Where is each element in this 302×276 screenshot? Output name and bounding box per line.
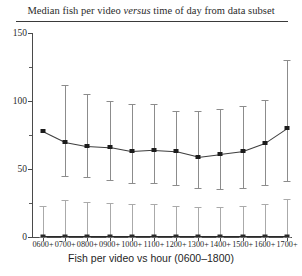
y-tick-minor-125: [29, 67, 32, 68]
errorbar-cap-lower-1500+: [239, 188, 246, 189]
errorbar-cap-lower-1000+: [128, 237, 135, 238]
data-point-baseline-near-zero-1400+: [218, 234, 223, 237]
errorbar-cap-upper-0900+: [106, 101, 113, 102]
x-axis-line: [32, 237, 292, 238]
line-segment-median-fish-per-video-10: [265, 128, 288, 144]
errorbar-cap-lower-1700+: [284, 237, 291, 238]
data-point-median-fish-per-video-0900+: [107, 145, 112, 149]
errorbar-cap-upper-1400+: [217, 207, 224, 208]
data-point-median-fish-per-video-1600+: [262, 141, 267, 145]
y-tick-label-150: 150: [13, 28, 27, 38]
errorbar-cap-lower-0900+: [106, 237, 113, 238]
errorbar-median-fish-per-video-1400+: [220, 109, 221, 189]
errorbar-baseline-near-zero-1600+: [265, 204, 266, 237]
y-tick-150: [28, 33, 33, 34]
errorbar-cap-upper-1000+: [128, 104, 135, 105]
data-point-baseline-near-zero-0800+: [85, 234, 90, 237]
errorbar-baseline-near-zero-1200+: [176, 206, 177, 237]
errorbar-cap-lower-0600+: [40, 237, 47, 238]
data-point-median-fish-per-video-1100+: [151, 148, 156, 152]
errorbar-baseline-near-zero-1500+: [243, 206, 244, 237]
errorbar-cap-lower-1300+: [195, 237, 202, 238]
errorbar-median-fish-per-video-0700+: [65, 85, 66, 176]
x-tick-label-0800+: 0800+: [77, 240, 98, 249]
errorbar-baseline-near-zero-0700+: [65, 200, 66, 237]
errorbar-median-fish-per-video-1000+: [132, 104, 133, 183]
errorbar-cap-lower-1600+: [261, 185, 268, 186]
y-tick-0: [28, 237, 33, 238]
chart-title-prefix: Median fish per video: [27, 5, 123, 16]
errorbar-cap-lower-0700+: [62, 176, 69, 177]
y-tick-100: [28, 101, 33, 102]
errorbar-cap-upper-1600+: [261, 204, 268, 205]
title-divider: [16, 21, 288, 22]
data-point-baseline-near-zero-1200+: [174, 234, 179, 237]
plot-area: 050100150 0600+0700+0800+0900+1000+1100+…: [32, 30, 294, 238]
errorbar-cap-lower-0900+: [106, 180, 113, 181]
errorbar-cap-upper-1300+: [195, 207, 202, 208]
x-tick-label-0600+: 0600+: [33, 240, 54, 249]
errorbar-baseline-near-zero-1100+: [154, 204, 155, 237]
y-tick-minor-25: [29, 203, 32, 204]
errorbar-median-fish-per-video-1700+: [287, 60, 288, 181]
errorbar-cap-lower-1400+: [217, 189, 224, 190]
errorbar-cap-upper-1400+: [217, 109, 224, 110]
data-point-baseline-near-zero-1600+: [262, 234, 267, 237]
data-point-baseline-near-zero-0600+: [41, 234, 46, 237]
errorbar-cap-upper-1700+: [284, 60, 291, 61]
x-tick-label-1400+: 1400+: [210, 240, 231, 249]
errorbar-cap-upper-1500+: [239, 206, 246, 207]
errorbar-cap-lower-1000+: [128, 183, 135, 184]
errorbar-cap-lower-1100+: [150, 183, 157, 184]
figure-container: Median fish per video versus time of day…: [0, 0, 302, 276]
errorbar-baseline-near-zero-0900+: [110, 203, 111, 237]
errorbar-median-fish-per-video-1300+: [198, 111, 199, 189]
errorbar-cap-upper-0600+: [40, 206, 47, 207]
data-point-median-fish-per-video-0700+: [63, 140, 68, 144]
y-tick-minor-75: [29, 135, 32, 136]
data-point-baseline-near-zero-0700+: [63, 234, 68, 237]
errorbar-cap-upper-1000+: [128, 204, 135, 205]
y-tick-label-100: 100: [13, 96, 27, 106]
data-point-median-fish-per-video-1300+: [196, 155, 201, 159]
errorbar-baseline-near-zero-0600+: [43, 206, 44, 237]
errorbar-cap-upper-1200+: [173, 206, 180, 207]
data-point-median-fish-per-video-0600+: [41, 129, 46, 133]
data-point-baseline-near-zero-1100+: [151, 234, 156, 237]
errorbar-cap-lower-1100+: [150, 237, 157, 238]
errorbar-baseline-near-zero-1700+: [287, 199, 288, 237]
data-point-baseline-near-zero-1500+: [240, 234, 245, 237]
x-tick-label-1300+: 1300+: [188, 240, 209, 249]
data-point-median-fish-per-video-1500+: [240, 149, 245, 153]
data-point-baseline-near-zero-1000+: [129, 234, 134, 237]
errorbar-cap-lower-1300+: [195, 188, 202, 189]
errorbar-cap-upper-0800+: [84, 94, 91, 95]
errorbar-median-fish-per-video-1500+: [243, 106, 244, 188]
errorbar-cap-lower-0800+: [84, 177, 91, 178]
x-tick-label-1500+: 1500+: [232, 240, 253, 249]
errorbar-cap-upper-1100+: [150, 104, 157, 105]
data-point-baseline-near-zero-0900+: [107, 234, 112, 237]
data-point-baseline-near-zero-1700+: [285, 234, 290, 237]
y-tick-label-50: 50: [18, 164, 28, 174]
x-tick-label-1200+: 1200+: [166, 240, 187, 249]
chart-title: Median fish per video versus time of day…: [0, 4, 302, 17]
data-point-median-fish-per-video-1200+: [174, 149, 179, 153]
errorbar-cap-upper-1100+: [150, 204, 157, 205]
x-tick-label-1000+: 1000+: [121, 240, 142, 249]
chart-title-suffix: time of day from data subset: [151, 5, 275, 16]
x-tick-label-0700+: 0700+: [55, 240, 76, 249]
data-point-median-fish-per-video-1400+: [218, 152, 223, 156]
errorbar-cap-lower-1200+: [173, 237, 180, 238]
x-tick-label-1100+: 1100+: [144, 240, 165, 249]
errorbar-cap-upper-0700+: [62, 85, 69, 86]
errorbar-cap-upper-1200+: [173, 111, 180, 112]
data-point-median-fish-per-video-1700+: [285, 126, 290, 130]
data-point-median-fish-per-video-0800+: [85, 144, 90, 148]
y-axis-line: [32, 33, 33, 238]
x-tick-label-1600+: 1600+: [254, 240, 275, 249]
errorbar-baseline-near-zero-1400+: [220, 207, 221, 237]
errorbar-cap-lower-1200+: [173, 185, 180, 186]
data-point-baseline-near-zero-1300+: [196, 234, 201, 237]
errorbar-median-fish-per-video-0900+: [110, 101, 111, 180]
